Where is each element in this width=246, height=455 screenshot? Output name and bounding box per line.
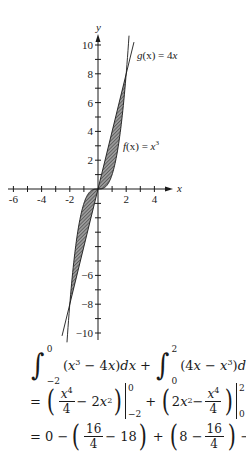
- label-g-of-x: g(x) = 4x: [137, 49, 178, 62]
- x-tick-label: -2: [65, 193, 74, 205]
- plus-sign: +: [145, 394, 156, 409]
- label-f-of-x: f(x) = x3: [123, 139, 159, 153]
- fraction-16-over-4: 164: [205, 422, 224, 451]
- x-tick-label: -6: [9, 193, 19, 205]
- y-tick-label: 10: [82, 39, 94, 51]
- term-text: − 2: [77, 394, 100, 409]
- x-axis-arrow-icon: [165, 187, 173, 192]
- x-tick-label: 2: [123, 193, 129, 205]
- fraction-16-over-4: 164: [84, 422, 103, 451]
- x-tick-label: 4: [152, 193, 158, 205]
- equation-line-2: = ( x44 − 2x2 ) 0−2 + ( 2x2 − x44 ) 20: [30, 381, 245, 421]
- y-tick-label: 4: [88, 125, 94, 137]
- y-axis-label: y: [95, 21, 101, 33]
- x-axis-label: x: [176, 182, 182, 194]
- integrand-1: (x3 − 4x)dx: [63, 358, 136, 373]
- evaluation-bar-2: 20: [236, 383, 245, 419]
- term-text: 8 −: [179, 429, 202, 444]
- y-tick-label: −10: [76, 327, 94, 339]
- fraction-x4-over-4: x44: [205, 387, 221, 416]
- integrand-2: (4x − x3)dx: [180, 358, 246, 373]
- fraction-x4-over-4: x44: [59, 387, 75, 416]
- y-axis-arrow-icon: [96, 34, 101, 42]
- equation-line-3: = 0 − ( 164 − 18 ) + ( 8 − 164 ) − 0 = 8: [30, 417, 246, 455]
- y-tick-label: −8: [81, 298, 93, 310]
- chart-graph: -6-4-224 x 108642−6−8−10 y g(x) = 4x f(x…: [0, 0, 246, 345]
- term-text: − 18: [105, 429, 137, 444]
- equation-line-1: ∫ 0−2 (x3 − 4x)dx + ∫ 20 (4x − x3)dx: [30, 346, 246, 384]
- integral-2: ∫ 20: [155, 348, 180, 382]
- integral-sign-icon: ∫: [31, 350, 44, 380]
- equals-sign: =: [30, 394, 41, 409]
- evaluation-bar-1: 0−2: [125, 383, 141, 419]
- y-axis: 108642−6−8−10 y: [76, 21, 101, 340]
- plus-sign: +: [153, 429, 164, 444]
- upper-limit: 2: [172, 344, 178, 354]
- x-tick-label: -4: [37, 193, 47, 205]
- upper-limit: 0: [47, 344, 60, 354]
- y-tick-label: 8: [88, 68, 94, 80]
- y-tick-label: 6: [88, 97, 94, 109]
- y-tick-label: 2: [88, 154, 94, 166]
- y-tick-label: −6: [81, 269, 93, 281]
- plus-sign: +: [140, 358, 151, 373]
- result-text: − 0 = 8: [241, 429, 246, 444]
- integral-1: ∫ 0−2: [30, 348, 63, 382]
- equals-zero-minus: = 0 −: [30, 429, 68, 444]
- integral-sign-icon: ∫: [156, 350, 169, 380]
